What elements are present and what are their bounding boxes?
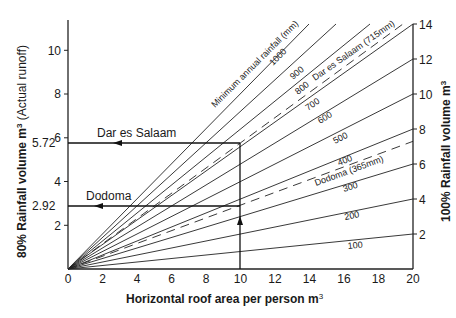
label-700: 700 <box>303 96 321 113</box>
right-tick-10: 10 <box>419 88 433 102</box>
left-tick-6: 6 <box>54 131 61 145</box>
right-tick-2: 2 <box>419 228 426 242</box>
right-tick-4: 4 <box>419 193 426 207</box>
x-axis-title: Horizontal roof area per person m3 <box>126 292 324 306</box>
right-tick-8: 8 <box>419 123 426 137</box>
left-axis-title: 80% Rainfall volume m3 (Actual runoff) <box>15 45 29 258</box>
right-tick-6: 6 <box>419 158 426 172</box>
x-tick-6: 6 <box>168 272 175 286</box>
right-tick-12: 12 <box>419 53 433 67</box>
x-tick-labels: 0 2 4 6 8 10 12 14 16 18 20 <box>65 272 420 286</box>
x-tick-8: 8 <box>203 272 210 286</box>
left-tick-8: 8 <box>54 87 61 101</box>
left-tick-4: 4 <box>54 175 61 189</box>
label-800: 800 <box>293 79 311 96</box>
x-tick-4: 4 <box>134 272 141 286</box>
dodoma-value: 2.92 <box>32 199 56 213</box>
dar-arrow-icon <box>113 140 122 146</box>
x-tick-10: 10 <box>234 272 248 286</box>
dar-value: 5.72 <box>32 136 56 150</box>
right-tick-14: 14 <box>419 18 433 32</box>
x-tick-18: 18 <box>372 272 386 286</box>
x-tick-2: 2 <box>99 272 106 286</box>
right-tick-labels: 2 4 6 8 10 12 14 <box>419 18 433 242</box>
header-min-rainfall: Minimum annual rainfall (mm) <box>209 19 300 110</box>
x-tick-12: 12 <box>268 272 282 286</box>
left-tick-2: 2 <box>54 219 61 233</box>
line-800mm <box>68 24 370 269</box>
left-tick-10: 10 <box>48 44 62 58</box>
rainfall-roof-area-chart: 2 4 6 8 10 2 4 6 8 10 12 14 0 2 4 6 8 10… <box>0 0 456 318</box>
label-600: 600 <box>316 109 334 125</box>
x-tick-20: 20 <box>406 272 420 286</box>
label-900: 900 <box>288 64 306 81</box>
arrows <box>94 140 243 225</box>
label-500: 500 <box>331 130 349 146</box>
line-900mm <box>68 24 336 269</box>
x-tick-16: 16 <box>337 272 351 286</box>
label-300: 300 <box>342 180 359 194</box>
x-tick-14: 14 <box>303 272 317 286</box>
dar-label: Dar es Salaam <box>97 126 176 140</box>
dodoma-label: Dodoma <box>86 189 132 203</box>
x-tick-0: 0 <box>65 272 72 286</box>
dodoma-arrow-icon <box>94 203 103 209</box>
right-axis-title: 100% Rainfall volume m3 <box>439 80 453 222</box>
label-dar-715: Dar es Salaam (715mm) <box>310 18 396 82</box>
label-200: 200 <box>343 209 360 222</box>
line-dar-715mm <box>68 24 403 269</box>
line-labels: Minimum annual rainfall (mm) 1000 900 80… <box>209 18 396 251</box>
label-100: 100 <box>347 239 363 251</box>
